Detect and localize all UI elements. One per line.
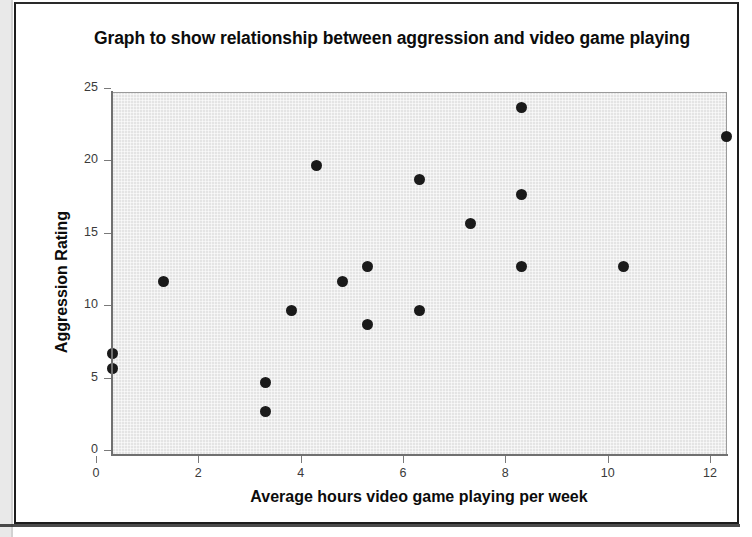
scatter-point (516, 261, 527, 272)
chart-title: Graph to show relationship between aggre… (16, 28, 752, 49)
scatter-point (158, 276, 169, 287)
scatter-point (414, 174, 425, 185)
x-tick-label: 0 (76, 466, 116, 480)
y-tick-label: 20 (68, 152, 98, 166)
figure-frame: Graph to show relationship between aggre… (14, 2, 739, 524)
y-tick-mark (104, 378, 111, 379)
y-tick-mark (104, 160, 111, 161)
x-tick-mark (198, 456, 199, 463)
y-tick-mark (104, 88, 111, 89)
scatter-point (362, 319, 373, 330)
plot-area (112, 92, 727, 455)
y-tick-label: 5 (68, 370, 98, 384)
x-axis-label: Average hours video game playing per wee… (112, 488, 726, 506)
x-tick-mark (710, 456, 711, 463)
scatter-point (414, 305, 425, 316)
scatter-point (311, 160, 322, 171)
x-tick-label: 2 (178, 466, 218, 480)
y-tick-mark (104, 450, 111, 451)
scanned-page: Graph to show relationship between aggre… (0, 0, 752, 537)
x-tick-mark (505, 456, 506, 463)
y-tick-mark (104, 233, 111, 234)
scatter-point (260, 377, 271, 388)
y-tick-mark (104, 305, 111, 306)
x-tick-mark (403, 456, 404, 463)
x-tick-mark (608, 456, 609, 463)
scatter-point (516, 189, 527, 200)
x-tick-mark (301, 456, 302, 463)
x-tick-label: 10 (588, 466, 628, 480)
page-gutter-edge (11, 0, 13, 537)
y-tick-label: 0 (68, 442, 98, 456)
y-axis-label: Aggression Rating (53, 132, 71, 432)
x-tick-label: 12 (690, 466, 730, 480)
x-tick-label: 8 (485, 466, 525, 480)
y-axis-line (111, 91, 113, 455)
scatter-point (516, 102, 527, 113)
scatter-point (362, 261, 373, 272)
y-tick-label: 10 (68, 297, 98, 311)
x-tick-label: 4 (281, 466, 321, 480)
x-tick-mark (96, 456, 97, 463)
x-tick-label: 6 (383, 466, 423, 480)
scatter-point (721, 131, 732, 142)
scatter-point (465, 218, 476, 229)
x-axis-line (111, 454, 728, 456)
y-tick-label: 15 (68, 225, 98, 239)
scatter-point (337, 276, 348, 287)
scatter-point (286, 305, 297, 316)
scatter-point (618, 261, 629, 272)
scatter-point (260, 406, 271, 417)
y-tick-label: 25 (68, 80, 98, 94)
page-bottom-edge (0, 524, 740, 527)
